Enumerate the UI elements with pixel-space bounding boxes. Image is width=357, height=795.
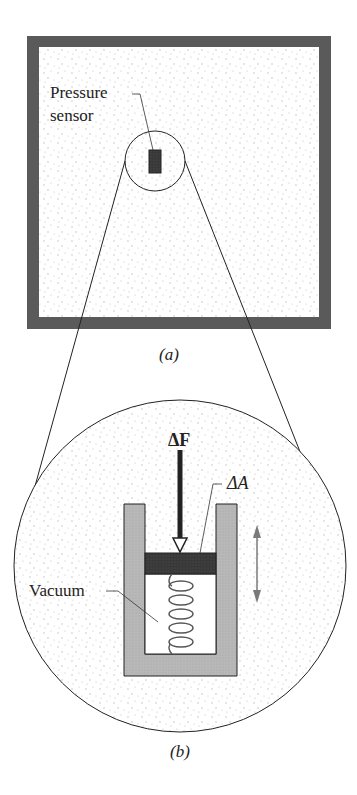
sensor-label-line2: sensor	[50, 106, 94, 125]
area-label: ΔA	[226, 473, 250, 493]
pressure-sensor	[149, 150, 161, 173]
vacuum-chamber	[145, 574, 216, 654]
pressure-sensor-figure: Pressure sensor (a)	[0, 0, 357, 795]
sensor-label-line1: Pressure	[50, 83, 108, 102]
panel-a-caption: (a)	[159, 345, 179, 364]
panel-b-caption: (b)	[170, 742, 190, 761]
force-label: ΔF	[168, 430, 190, 450]
piston	[145, 553, 216, 574]
panel-b: ΔF ΔA Vacuum (b)	[14, 400, 346, 761]
vacuum-label: Vacuum	[29, 581, 85, 600]
